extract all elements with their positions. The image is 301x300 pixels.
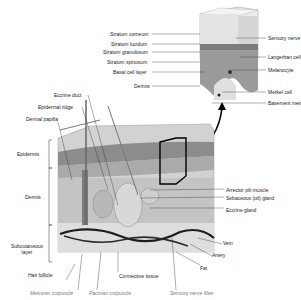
label-epidermal-ridge: Epidermal ridge xyxy=(38,104,73,110)
label-sensory-nerve-ending: Sensory nerve ending xyxy=(268,35,301,41)
label-epidermis: Epidermis xyxy=(17,151,39,157)
label-sebaceous-gland: Sebaceous (oil) gland xyxy=(226,195,274,201)
label-basal-cell-layer: Basal cell layer xyxy=(113,69,147,75)
label-basement-membrane: Basement membrane xyxy=(268,100,301,106)
label-hair-follicle: Hair follicle xyxy=(28,272,52,278)
label-artery: Artery xyxy=(212,252,225,258)
label-stratum-granulosum: Stratum granulosum xyxy=(103,49,148,55)
inset-epidermis-block xyxy=(200,7,258,100)
label-pacinian-corpuscle: Pacinian corpuscle xyxy=(89,290,131,296)
label-eccrine-gland: Eccrine gland xyxy=(226,207,256,213)
label-stratum-corneum: Stratum corneum xyxy=(110,31,148,37)
label-merkel-cell: Merkel cell xyxy=(268,89,292,95)
label-dermis-inset: Dermis xyxy=(134,83,150,89)
label-dermal-papilla: Dermal papilla xyxy=(26,116,58,122)
label-dermis: Dermis xyxy=(25,194,41,200)
label-langerhan-cell: Langerhan cell xyxy=(268,54,301,60)
label-meissner-corpuscle: Meissner corpuscle xyxy=(30,290,73,296)
label-eccrine-duct: Eccrine duct xyxy=(54,92,82,98)
label-connective-tissue: Connective tissue xyxy=(119,273,158,279)
skin-diagram xyxy=(0,0,301,300)
label-vein: Vein xyxy=(223,240,233,246)
label-stratum-lucidum: Stratum lucidum xyxy=(111,41,147,47)
label-melanocyte: Melanocyte xyxy=(268,67,294,73)
label-subcutaneous-layer: Subcutaneous layer xyxy=(8,243,46,255)
label-fat: Fat xyxy=(200,265,207,271)
label-arrector-pili-muscle: Arrector pili muscle xyxy=(226,187,269,193)
main-skin-block xyxy=(58,100,214,252)
label-sensory-nerve-fiber: Sensory nerve fiber xyxy=(170,290,213,296)
label-stratum-spinosum: Stratum spinosum xyxy=(107,59,147,65)
